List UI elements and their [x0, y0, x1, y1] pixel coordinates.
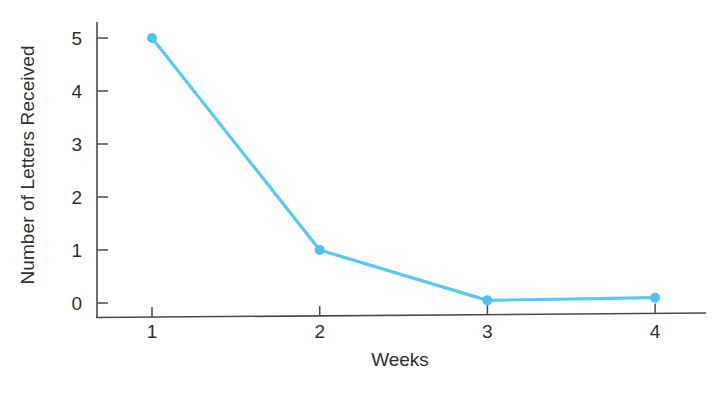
- y-axis-ticks: [97, 38, 108, 303]
- data-point-marker: [650, 293, 660, 303]
- line-chart-figure: Number of Letters Received 012345 1234 W…: [0, 0, 719, 393]
- data-point-marker: [315, 245, 325, 255]
- data-point-marker: [147, 33, 157, 43]
- data-point-markers: [147, 33, 660, 305]
- plot-area: [0, 0, 719, 393]
- data-series-line: [152, 38, 655, 300]
- data-point-marker: [482, 295, 492, 305]
- x-axis-line: [96, 313, 706, 318]
